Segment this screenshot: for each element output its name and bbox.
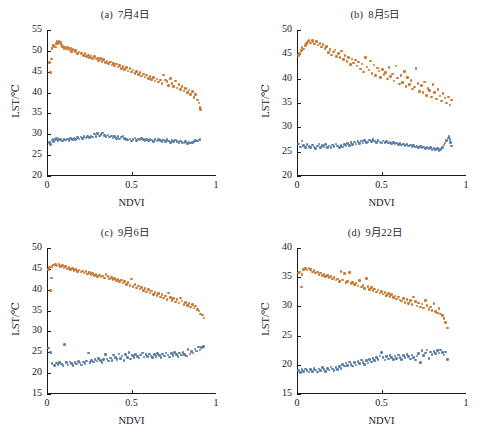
data-point (355, 143, 358, 146)
data-point (373, 359, 376, 362)
data-point (67, 364, 70, 367)
y-tick-label: 45 (32, 262, 42, 273)
data-point (304, 146, 307, 149)
data-point (444, 351, 447, 354)
data-point (377, 358, 380, 361)
data-point (367, 141, 370, 144)
series-wet-edge (297, 30, 466, 176)
panel-title-label: (c) (101, 227, 113, 238)
x-tick-label: 0 (295, 397, 300, 408)
data-point (49, 143, 52, 146)
data-point (370, 361, 373, 364)
data-point (392, 358, 395, 361)
data-point (192, 352, 195, 355)
panel-title: (b)8月5日 (250, 6, 500, 21)
data-point (431, 353, 434, 356)
y-tick-mark (47, 394, 51, 395)
data-point (438, 352, 441, 355)
data-point (53, 364, 56, 367)
data-point (450, 145, 453, 148)
data-point (422, 354, 425, 357)
data-point (104, 353, 107, 356)
y-axis-label: LST/℃ (9, 71, 21, 131)
x-axis-label: NDVI (297, 415, 466, 426)
x-tick-label: 0.5 (375, 179, 388, 190)
y-tick-label: 25 (32, 148, 42, 159)
plot-area: 15202530354000.51 (297, 248, 466, 394)
y-axis-tick: 20 (47, 176, 48, 177)
x-tick-label: 1 (464, 397, 469, 408)
scatter-points (297, 30, 466, 176)
y-axis-tick: 15 (297, 394, 298, 395)
chart-panel-1: (a)7月4日202530354045505500.51LST/℃NDVI (0, 0, 250, 218)
data-point (348, 144, 351, 147)
y-axis-label: LST/℃ (9, 289, 21, 349)
data-point (367, 362, 370, 365)
data-point (379, 355, 382, 358)
data-point (84, 362, 87, 365)
data-point (314, 147, 317, 150)
y-tick-label: 20 (32, 169, 42, 180)
scatter-points (47, 248, 216, 394)
panel-title-label: (d) (348, 227, 361, 238)
data-point (343, 365, 346, 368)
data-point (177, 355, 180, 358)
data-point (49, 351, 52, 354)
x-tick-label: 1 (464, 179, 469, 190)
data-point (172, 354, 175, 357)
y-tick-label: 40 (32, 86, 42, 97)
y-tick-label: 20 (282, 169, 292, 180)
y-tick-label: 15 (32, 387, 42, 398)
x-tick-label: 0 (295, 179, 300, 190)
data-point (449, 141, 452, 144)
x-tick-label: 1 (214, 179, 219, 190)
y-tick-label: 35 (32, 304, 42, 315)
y-tick-label: 35 (32, 106, 42, 117)
data-point (116, 358, 119, 361)
data-point (319, 369, 322, 372)
data-point (445, 139, 448, 142)
data-point (358, 362, 361, 365)
data-point (197, 346, 200, 349)
data-point (324, 143, 327, 146)
y-tick-label: 40 (32, 283, 42, 294)
data-point (362, 142, 365, 145)
panel-title-label: (a) (101, 9, 113, 20)
data-point (180, 354, 183, 357)
data-point (323, 146, 326, 149)
data-point (160, 356, 163, 359)
data-point (318, 143, 321, 146)
y-tick-label: 45 (32, 65, 42, 76)
data-point (330, 146, 333, 149)
scatter-points (297, 248, 466, 394)
y-axis-label: LST/℃ (259, 71, 271, 131)
data-point (333, 369, 336, 372)
data-point (345, 145, 348, 148)
y-tick-mark (297, 176, 301, 177)
data-point (63, 343, 66, 346)
y-tick-label: 30 (32, 127, 42, 138)
plot-area: 152025303540455000.51 (47, 248, 216, 394)
panel-title-date: 7月4日 (118, 9, 149, 20)
data-point (414, 359, 417, 362)
data-point (404, 356, 407, 359)
data-point (336, 368, 339, 371)
data-point (395, 357, 398, 360)
data-point (419, 361, 422, 364)
y-tick-label: 35 (282, 270, 292, 281)
series-wet-edge (47, 248, 216, 394)
x-axis-label: NDVI (47, 415, 216, 426)
plot-area: 2025303540455000.51 (297, 30, 466, 176)
y-tick-label: 55 (32, 23, 42, 34)
x-tick-label: 0 (45, 397, 50, 408)
data-point (351, 365, 354, 368)
y-axis-tick: 15 (47, 394, 48, 395)
panel-title: (c)9月6日 (0, 224, 250, 239)
x-tick-label: 0.5 (375, 397, 388, 408)
y-tick-label: 40 (282, 72, 292, 83)
data-point (123, 359, 126, 362)
data-point (316, 371, 319, 374)
data-point (333, 145, 336, 148)
data-point (328, 369, 331, 372)
data-point (121, 355, 124, 358)
